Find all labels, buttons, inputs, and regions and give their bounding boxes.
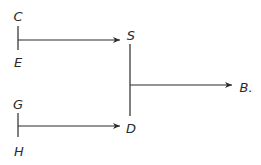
node-label-d: D	[126, 122, 136, 135]
node-label-b: B.	[239, 81, 252, 94]
node-label-s: S	[127, 29, 135, 42]
node-label-e: E	[14, 56, 22, 69]
node-label-g: G	[13, 98, 23, 111]
node-label-c: C	[13, 10, 22, 23]
node-label-h: H	[14, 145, 24, 158]
diagram-canvas	[0, 0, 261, 165]
